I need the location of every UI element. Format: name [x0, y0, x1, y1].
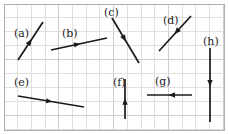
vector-label-g: (g): [155, 75, 171, 88]
vector-label-b: (b): [62, 27, 78, 40]
vector-arrowhead-h: [207, 80, 212, 86]
vector-label-a: (a): [14, 27, 29, 40]
vector-diagram-figure: (a)(b)(c)(d)(e)(f)(g)(h): [0, 0, 228, 134]
vector-label-e: (e): [14, 76, 29, 89]
vector-arrowhead-a: [26, 39, 32, 46]
vector-label-h: (h): [203, 35, 219, 48]
vector-diagram-canvas: (a)(b)(c)(d)(e)(f)(g)(h): [0, 0, 228, 134]
vector-label-d: (d): [163, 14, 179, 27]
vector-arrowhead-g: [169, 92, 175, 97]
vector-label-c: (c): [104, 6, 119, 19]
vector-label-f: (f): [113, 76, 126, 89]
